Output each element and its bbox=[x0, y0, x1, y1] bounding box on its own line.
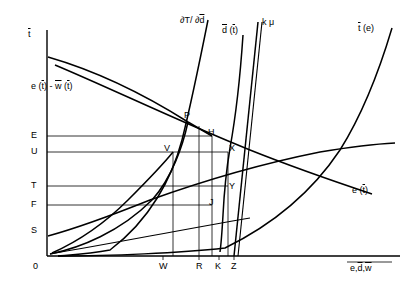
curve-label-e-of-t: e (t) bbox=[352, 186, 368, 195]
x-tick-label-W: W bbox=[159, 262, 168, 271]
axes-group bbox=[47, 30, 400, 262]
y-axis-label: t bbox=[28, 30, 31, 39]
y-tick-label-E: E bbox=[31, 131, 37, 140]
x-axis-label: e,d,w bbox=[350, 264, 372, 273]
diagram-svg bbox=[0, 0, 418, 295]
y-tick-label-F: F bbox=[31, 200, 37, 209]
y-tick-label-T: T bbox=[31, 181, 37, 190]
x-tick-label-R: R bbox=[196, 262, 203, 271]
point-label-J: J bbox=[209, 198, 214, 207]
point-label-V: V bbox=[164, 144, 170, 153]
curves-group bbox=[48, 20, 395, 256]
curve-dT-dd bbox=[58, 20, 208, 256]
curve-label-d-of-t: d (t) bbox=[222, 26, 238, 35]
point-label-X: X bbox=[229, 144, 235, 153]
curve-rising-to-P bbox=[50, 122, 188, 254]
curve-from-S bbox=[48, 143, 395, 236]
curve-label-dT-dd: ∂T/ ∂d bbox=[180, 16, 204, 25]
curve-k-mu-left bbox=[234, 22, 258, 256]
curve-label-t-of-e: t (e) bbox=[358, 24, 374, 33]
point-label-P: P bbox=[184, 111, 190, 120]
horizontal-helper-lines bbox=[47, 136, 228, 205]
y-tick-label-S: S bbox=[31, 226, 37, 235]
curve-label-e-minus-w: e (t) - w (t) bbox=[31, 82, 73, 91]
origin-label: 0 bbox=[33, 262, 38, 271]
curve-t-of-e bbox=[58, 28, 392, 256]
figure-root: t e,d,w 0 e (t) - w (t) ∂T/ ∂d d (t) k μ… bbox=[0, 0, 418, 295]
curve-label-k-mu: k μ bbox=[262, 18, 274, 27]
y-tick-label-U: U bbox=[31, 147, 38, 156]
x-tick-label-Z: Z bbox=[231, 262, 237, 271]
point-label-H: H bbox=[208, 128, 215, 137]
x-tick-label-K: K bbox=[215, 262, 221, 271]
point-label-Y: Y bbox=[229, 182, 235, 191]
